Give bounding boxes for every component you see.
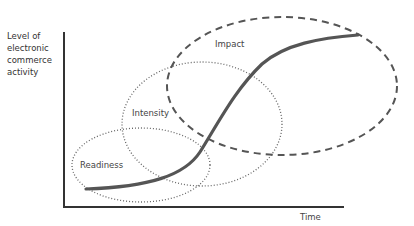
impact-ellipse xyxy=(167,17,397,155)
growth-curve xyxy=(86,35,358,189)
impact-label: Impact xyxy=(215,39,244,49)
x-axis-label: Time xyxy=(300,212,321,222)
intensity-ellipse xyxy=(122,62,282,186)
intensity-label: Intensity xyxy=(132,108,169,118)
diagram-canvas xyxy=(0,0,414,226)
readiness-label: Readiness xyxy=(80,160,123,170)
